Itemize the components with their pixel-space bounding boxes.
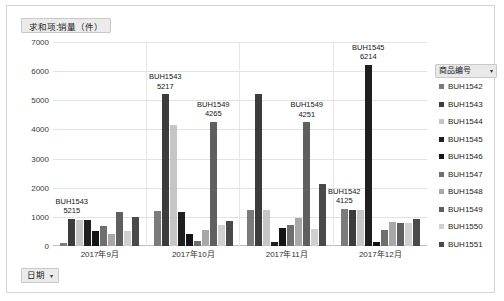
legend-item-label: BUH1549 (448, 205, 483, 214)
bar[interactable] (295, 218, 302, 246)
x-axis-tick-label: 2017年12月 (334, 248, 428, 259)
data-label-name: BUH1543 (55, 197, 88, 207)
bar[interactable] (303, 122, 310, 246)
legend-swatch-icon (439, 242, 444, 247)
legend-item[interactable]: BUH1549 (435, 201, 497, 219)
legend-swatch-icon (439, 207, 444, 212)
legend-item-label: BUH1544 (448, 117, 483, 126)
chevron-down-icon: ▾ (490, 68, 493, 74)
legend-title: 商品编号 (439, 65, 471, 77)
bar[interactable] (311, 229, 318, 246)
bar[interactable] (162, 94, 169, 246)
value-field-button[interactable]: 求和项:销量（件） (21, 18, 111, 33)
bar[interactable] (389, 222, 396, 246)
legend-item[interactable]: BUH1550 (435, 218, 497, 236)
legend-item[interactable]: BUH1543 (435, 96, 497, 114)
bars (244, 42, 330, 246)
bar[interactable] (341, 209, 348, 246)
bar[interactable] (373, 242, 380, 246)
bar[interactable] (255, 94, 262, 246)
legend-swatch-icon (439, 119, 444, 124)
pivot-chart-window: 求和项:销量（件） 70006000500040003000200010000 … (0, 0, 504, 301)
bar-groups: 2017年9月2017年10月2017年11月2017年12月 (53, 42, 427, 246)
legend-item-label: BUH1550 (448, 222, 483, 231)
bar[interactable] (76, 220, 83, 246)
bar[interactable] (124, 231, 131, 246)
bar[interactable] (381, 230, 388, 246)
legend-swatch-icon (439, 154, 444, 159)
legend-item[interactable]: BUH1551 (435, 236, 497, 254)
y-axis-tick-label: 6000 (15, 67, 49, 76)
bar[interactable] (194, 241, 201, 246)
y-axis-tick-label: 4000 (15, 125, 49, 134)
data-label: BUH15494251 (290, 100, 323, 119)
bar[interactable] (349, 210, 356, 246)
bar-group: 2017年11月 (240, 42, 334, 246)
bar[interactable] (92, 231, 99, 246)
bar[interactable] (405, 223, 412, 246)
bar[interactable] (116, 212, 123, 246)
chevron-down-icon: ▾ (50, 273, 53, 279)
bar[interactable] (154, 211, 161, 246)
legend-item[interactable]: BUH1547 (435, 166, 497, 184)
legend-item[interactable]: BUH1545 (435, 131, 497, 149)
data-label-value: 5217 (149, 82, 182, 92)
bar[interactable] (397, 223, 404, 246)
y-axis: 70006000500040003000200010000 (13, 42, 49, 246)
bar[interactable] (218, 225, 225, 246)
bar[interactable] (279, 228, 286, 246)
legend-item[interactable]: BUH1546 (435, 148, 497, 166)
legend-item-label: BUH1545 (448, 135, 483, 144)
bar[interactable] (226, 221, 233, 246)
data-label-value: 5215 (55, 206, 88, 216)
data-label: BUH15435215 (55, 197, 88, 216)
data-label-name: BUH1542 (328, 187, 361, 197)
bar[interactable] (132, 217, 139, 246)
legend-item[interactable]: BUH1542 (435, 78, 497, 96)
bar[interactable] (263, 210, 270, 246)
bar[interactable] (68, 219, 75, 246)
y-axis-tick-label: 7000 (15, 38, 49, 47)
bar[interactable] (357, 210, 364, 246)
bar[interactable] (170, 125, 177, 246)
y-axis-tick-label: 3000 (15, 154, 49, 163)
bar[interactable] (271, 242, 278, 246)
legend: 商品编号 ▾ BUH1542BUH1543BUH1544BUH1545BUH15… (435, 64, 497, 292)
bar[interactable] (84, 220, 91, 246)
bar[interactable] (287, 225, 294, 246)
legend-swatch-icon (439, 102, 444, 107)
bar[interactable] (60, 243, 67, 246)
date-field-label: 日期 (27, 269, 45, 282)
date-field-button[interactable]: 日期 ▾ (21, 268, 59, 283)
bar[interactable] (210, 122, 217, 246)
data-label-name: BUH1545 (352, 43, 385, 53)
legend-item-label: BUH1542 (448, 82, 483, 91)
legend-item[interactable]: BUH1544 (435, 113, 497, 131)
chart-frame: 求和项:销量（件） 70006000500040003000200010000 … (6, 5, 495, 293)
data-label-name: BUH1543 (149, 72, 182, 82)
y-axis-tick-label: 2000 (15, 183, 49, 192)
legend-swatch-icon (439, 224, 444, 229)
legend-field-button[interactable]: 商品编号 ▾ (435, 64, 497, 78)
data-label: BUH15494265 (197, 100, 230, 119)
bar[interactable] (202, 230, 209, 246)
bar[interactable] (247, 210, 254, 246)
bar-group: 2017年12月 (334, 42, 428, 246)
y-axis-tick-label: 1000 (15, 212, 49, 221)
data-label-name: BUH1549 (290, 100, 323, 110)
bar[interactable] (100, 226, 107, 246)
legend-swatch-icon (439, 84, 444, 89)
legend-item[interactable]: BUH1548 (435, 183, 497, 201)
x-axis-tick-label: 2017年10月 (147, 248, 241, 259)
bar[interactable] (186, 234, 193, 246)
bar[interactable] (319, 184, 326, 246)
x-axis-tick-label: 2017年9月 (53, 248, 147, 259)
bar[interactable] (178, 212, 185, 246)
bar[interactable] (108, 234, 115, 246)
bar[interactable] (413, 219, 420, 246)
legend-item-label: BUH1546 (448, 152, 483, 161)
plot-area: 2017年9月2017年10月2017年11月2017年12月BUH154352… (53, 42, 427, 246)
bar[interactable] (365, 65, 372, 246)
legend-swatch-icon (439, 172, 444, 177)
data-label-value: 4251 (290, 110, 323, 120)
